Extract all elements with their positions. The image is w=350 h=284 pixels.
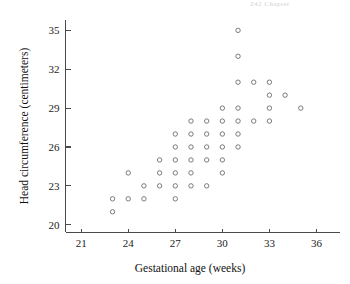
axes-group xyxy=(66,20,341,233)
data-point xyxy=(173,184,177,188)
data-point xyxy=(126,197,130,201)
data-point xyxy=(189,119,193,123)
data-point xyxy=(110,197,114,201)
data-point xyxy=(236,106,240,110)
data-point xyxy=(299,106,303,110)
data-point xyxy=(142,197,146,201)
y-tick-label: 23 xyxy=(49,180,61,192)
x-tick-label: 27 xyxy=(170,237,182,249)
data-point xyxy=(142,184,146,188)
data-point xyxy=(110,210,114,214)
data-point xyxy=(157,171,161,175)
data-point xyxy=(173,145,177,149)
data-point xyxy=(236,119,240,123)
y-tick-label: 20 xyxy=(49,219,61,231)
data-point xyxy=(157,184,161,188)
data-point xyxy=(220,106,224,110)
data-points-group xyxy=(110,28,303,214)
scatter-plot-figure: 242 Chapter 212427303336 202326293235 Ge… xyxy=(0,0,350,284)
data-point xyxy=(189,158,193,162)
y-tick-label: 26 xyxy=(49,141,61,153)
data-point xyxy=(267,119,271,123)
data-point xyxy=(204,184,208,188)
y-tick-label: 32 xyxy=(49,63,60,75)
data-point xyxy=(173,158,177,162)
x-tick-label: 30 xyxy=(217,237,229,249)
data-point xyxy=(189,132,193,136)
y-tick-label: 29 xyxy=(49,102,61,114)
data-point xyxy=(236,28,240,32)
x-tick-label: 21 xyxy=(76,237,87,249)
x-tick-label: 24 xyxy=(123,237,135,249)
data-point xyxy=(252,119,256,123)
x-tick-marks xyxy=(81,229,316,233)
y-axis-title: Head circumference (centimeters) xyxy=(18,48,31,205)
x-tick-labels: 212427303336 xyxy=(76,237,323,249)
data-point xyxy=(236,54,240,58)
data-point xyxy=(267,80,271,84)
data-point xyxy=(220,171,224,175)
y-tick-label: 35 xyxy=(49,24,61,36)
data-point xyxy=(189,184,193,188)
x-tick-label: 36 xyxy=(311,237,323,249)
data-point xyxy=(220,119,224,123)
data-point xyxy=(267,106,271,110)
data-point xyxy=(204,145,208,149)
data-point xyxy=(204,119,208,123)
data-point xyxy=(236,145,240,149)
data-point xyxy=(236,132,240,136)
data-point xyxy=(189,145,193,149)
data-point xyxy=(220,145,224,149)
data-point xyxy=(267,93,271,97)
data-point xyxy=(252,80,256,84)
x-axis-title: Gestational age (weeks) xyxy=(135,262,246,275)
x-tick-label: 33 xyxy=(264,237,276,249)
data-point xyxy=(220,158,224,162)
y-tick-labels: 202326293235 xyxy=(49,24,61,230)
scatter-plot-canvas: 212427303336 202326293235 Gestational ag… xyxy=(0,0,350,284)
y-tick-marks xyxy=(66,30,71,224)
data-point xyxy=(173,132,177,136)
data-point xyxy=(204,158,208,162)
data-point xyxy=(173,197,177,201)
data-point xyxy=(204,132,208,136)
data-point xyxy=(126,171,130,175)
data-point xyxy=(173,171,177,175)
data-point xyxy=(220,132,224,136)
data-point xyxy=(189,171,193,175)
data-point xyxy=(157,158,161,162)
data-point xyxy=(283,93,287,97)
data-point xyxy=(236,80,240,84)
